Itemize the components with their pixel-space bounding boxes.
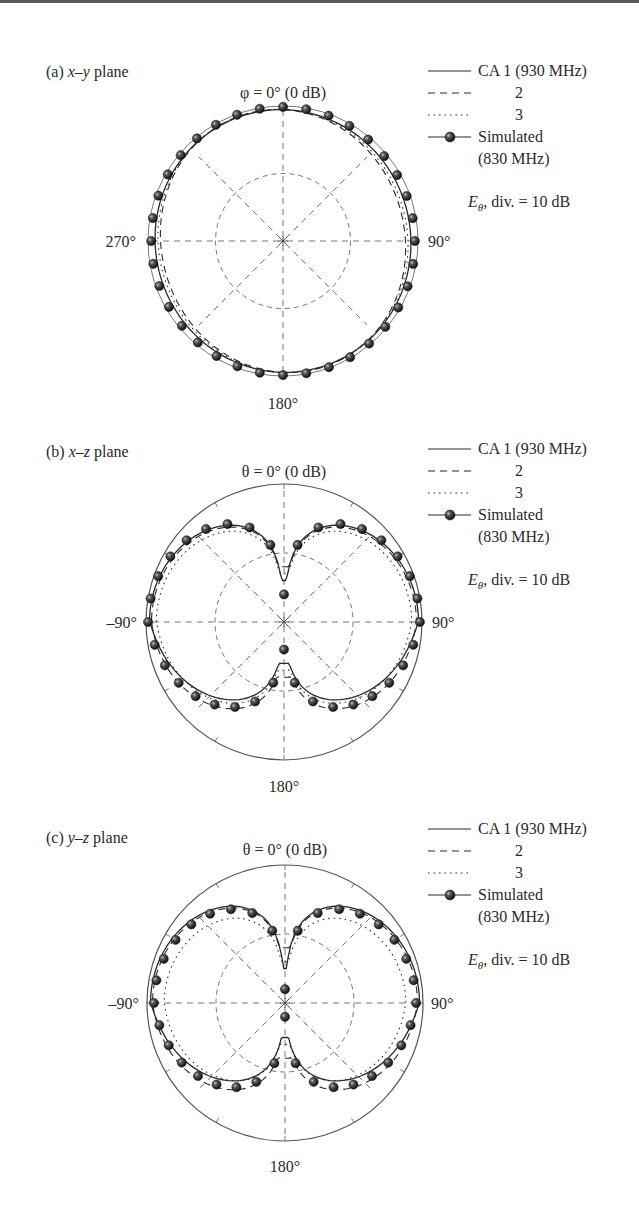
data-point-simulated [399,661,408,670]
data-point-simulated [394,303,403,312]
legend-label: 3 [515,484,523,501]
center-mark [279,617,289,627]
data-point-simulated [278,102,287,111]
data-point-simulated [226,905,235,914]
data-point-simulated [279,645,288,654]
legend-b: CA 1 (930 MHz)23Simulated(830 MHz)Eθ, di… [428,440,587,591]
data-point-simulated [223,519,232,528]
data-point-simulated [233,362,242,371]
grid-tick [216,883,219,887]
legend-c: CA 1 (930 MHz)23Simulated(830 MHz)Eθ, di… [428,820,587,971]
panel-title: (b) x–z plane [46,443,129,461]
data-point-simulated [278,370,287,379]
data-point-simulated [410,236,419,245]
legend-label: Simulated [478,506,543,523]
data-point-simulated [384,1058,393,1067]
legend-note: Eθ, div. = 10 dB [467,951,570,971]
data-point-simulated [252,1077,261,1086]
data-point-simulated [364,339,373,348]
grid-spoke [199,244,280,325]
right-angle-label: 90° [432,614,454,631]
data-point-simulated [345,121,354,130]
data-point-simulated [349,1080,358,1089]
data-point-simulated [402,954,411,963]
right-angle-label: 90° [428,233,450,250]
data-point-simulated [409,640,418,649]
data-point-simulated [302,105,311,114]
grid-tick [352,883,355,887]
data-point-simulated [329,1083,338,1092]
data-point-simulated [149,998,158,1007]
data-point-simulated [402,191,411,200]
grid-tick [351,737,354,741]
center-mark [278,236,288,246]
data-point-simulated [355,909,364,918]
data-point-simulated [380,152,389,161]
legend-note: Eθ, div. = 10 dB [467,571,570,591]
data-point-simulated [409,259,418,268]
data-point-simulated [149,259,158,268]
data-point-simulated [377,536,386,545]
right-angle-label: 90° [431,995,453,1012]
bottom-angle-label: 180° [268,395,298,412]
top-angle-label: θ = 0° (0 dB) [242,463,326,481]
data-point-simulated [193,338,202,347]
data-point-simulated [187,920,196,929]
bottom-angle-label: 180° [269,778,299,795]
data-point-simulated [171,935,180,944]
data-point-simulated [250,697,259,706]
data-point-simulated [279,590,288,599]
data-point-simulated [314,523,323,532]
legend-swatch-marker [445,890,455,900]
data-point-simulated [290,678,299,687]
data-point-simulated [357,524,366,533]
grid-tick [400,934,404,937]
data-point-simulated [328,702,337,711]
data-point-simulated [336,519,345,528]
legend-label: 2 [515,462,523,479]
data-point-simulated [270,1059,279,1068]
legend-label: (830 MHz) [478,908,550,926]
data-point-simulated [367,1071,376,1080]
data-point-simulated [212,351,221,360]
legend-swatch-marker [445,132,455,142]
data-point-simulated [291,1059,300,1068]
panel-a: (a) x–y plane φ = 0° (0 dB) 270° 90° 180… [46,62,587,412]
data-point-simulated [412,998,421,1007]
data-point-simulated [385,678,394,687]
data-point-simulated [212,1080,221,1089]
data-point-simulated [308,697,317,706]
legend-label: CA 1 (930 MHz) [478,440,587,458]
data-point-simulated [393,171,402,180]
data-point-simulated [192,134,201,143]
left-angle-label: –90° [108,995,139,1012]
data-point-simulated [415,617,424,626]
left-angle-label: 270° [106,233,136,250]
data-point-simulated [210,700,219,709]
data-point-simulated [381,322,390,331]
grid-tick [164,689,168,692]
panel-c: (c) y–z plane θ = 0° (0 dB) –90° 90° 180… [46,820,587,1175]
grid-tick [165,1070,169,1073]
data-point-simulated [397,1041,406,1050]
panel-title: (a) x–y plane [46,63,129,81]
data-point-simulated [408,214,417,223]
legend-label: CA 1 (930 MHz) [478,820,587,838]
data-point-simulated [269,678,278,687]
data-point-simulated [374,920,383,929]
top-angle-label: θ = 0° (0 dB) [243,841,327,859]
data-point-simulated [266,540,275,549]
data-point-simulated [232,1083,241,1092]
left-angle-label: –90° [106,614,137,631]
data-point-simulated [268,926,277,935]
panel-title: (c) y–z plane [46,829,128,847]
data-point-simulated [154,572,163,581]
legend-label: (830 MHz) [478,528,550,546]
top-angle-label: φ = 0° (0 dB) [240,84,326,102]
figure-canvas: (a) x–y plane φ = 0° (0 dB) 270° 90° 180… [0,0,639,1217]
grid-tick [215,502,218,506]
data-point-simulated [280,1012,289,1021]
data-point-simulated [160,661,169,670]
data-point-simulated [152,976,161,985]
data-point-simulated [255,368,264,377]
